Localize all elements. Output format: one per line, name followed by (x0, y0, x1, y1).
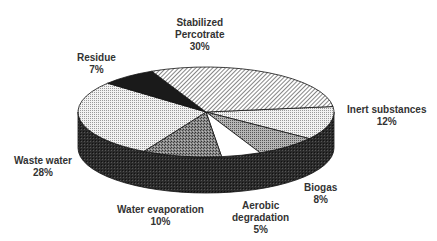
pie-3d (78, 67, 334, 193)
label-residue: Residue 7% (77, 52, 116, 76)
label-aerobic-degradation: Aerobic degradation 5% (232, 200, 289, 236)
label-waste-water: Waste water 28% (14, 155, 72, 179)
label-stabilized-percotrate: Stabilized Percotrate 30% (175, 17, 224, 53)
label-biogas: Biogas 8% (304, 182, 337, 206)
label-inert-substances: Inert substances 12% (347, 104, 426, 128)
label-water-evaporation: Water evaporation 10% (117, 204, 204, 228)
